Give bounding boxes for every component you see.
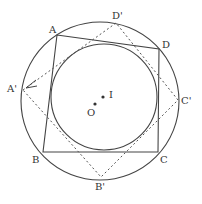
geometry-diagram: A D C B D' A' C' B' O I bbox=[0, 0, 202, 204]
label-b-prime: B' bbox=[95, 181, 105, 192]
dashed-quadrilateral bbox=[23, 23, 178, 177]
label-i: I bbox=[109, 89, 113, 100]
label-d-prime: D' bbox=[112, 10, 123, 21]
label-c: C bbox=[160, 154, 168, 165]
circumcircle bbox=[21, 22, 179, 180]
label-a-prime: A' bbox=[6, 83, 17, 94]
label-o: O bbox=[87, 107, 95, 118]
label-c-prime: C' bbox=[181, 95, 191, 106]
label-d: D bbox=[162, 39, 170, 50]
point-o bbox=[93, 102, 96, 105]
point-i bbox=[101, 95, 104, 98]
label-a: A bbox=[48, 24, 57, 35]
label-b: B bbox=[32, 154, 39, 165]
